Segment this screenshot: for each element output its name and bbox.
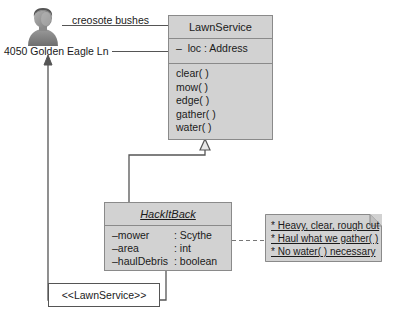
attribute-type: : int: [174, 242, 191, 255]
uml-diagram-canvas: creosote bushes 4050 Golden Eagle Ln Law…: [0, 0, 393, 313]
operation-mow: mow( ): [176, 81, 265, 95]
association-label-creosote-bushes: creosote bushes: [72, 14, 149, 26]
connector-generalization-path: [129, 150, 205, 202]
class-box-hackitback[interactable]: HackItBack –mower : Scythe –area : int –…: [104, 202, 232, 271]
operation-clear: clear( ): [176, 67, 265, 81]
attribute-name: –area: [112, 242, 174, 255]
class-name-text: LawnService: [189, 21, 252, 33]
attribute-mower: –mower : Scythe: [112, 229, 224, 242]
attribute-area: –area : int: [112, 242, 224, 255]
class-box-lawnservice[interactable]: LawnService – loc : Address clear( ) mow…: [168, 15, 273, 140]
stereotype-label-lawnservice: <<LawnService>>: [48, 283, 160, 307]
attribute-loc: – loc : Address: [176, 42, 265, 55]
note-line-no-water: * No water( ) necessary: [271, 245, 378, 258]
note-line-haul: * Haul what we gather( ): [271, 232, 378, 245]
actor-address-label: 4050 Golden Eagle Ln: [4, 45, 109, 57]
attribute-name: –mower: [112, 229, 174, 242]
class-attributes-hackitback: –mower : Scythe –area : int –haulDebris …: [105, 225, 231, 272]
operation-edge: edge( ): [176, 94, 265, 108]
class-name-lawnservice: LawnService: [169, 16, 272, 38]
attribute-name: –haulDebris: [112, 255, 174, 268]
hollow-triangle-arrowhead-icon: [200, 139, 210, 150]
actor-person-icon: [24, 6, 62, 46]
attribute-type: : Scythe: [174, 229, 212, 242]
operation-water: water( ): [176, 121, 265, 135]
note-text-block: * Heavy, clear, rough cut * Haul what we…: [271, 219, 378, 258]
operation-gather: gather( ): [176, 108, 265, 122]
class-operations-lawnservice: clear( ) mow( ) edge( ) gather( ) water(…: [169, 63, 272, 139]
attribute-type: : boolean: [174, 255, 217, 268]
note-box[interactable]: * Heavy, clear, rough cut * Haul what we…: [265, 214, 382, 262]
attribute-hauldebris: –haulDebris : boolean: [112, 255, 224, 268]
class-name-hackitback: HackItBack: [105, 203, 231, 225]
class-attributes-lawnservice: – loc : Address: [169, 38, 272, 63]
class-name-text: HackItBack: [140, 208, 196, 220]
note-line-heavy-clear: * Heavy, clear, rough cut: [271, 219, 378, 232]
